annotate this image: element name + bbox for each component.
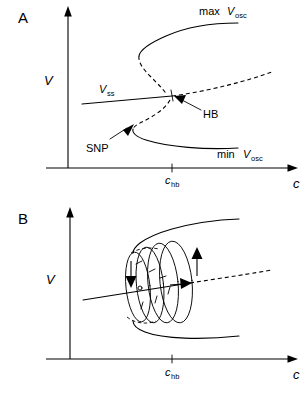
x-axis-arrowhead xyxy=(288,355,299,363)
min-word: min xyxy=(217,148,235,160)
curve-min-v-osc xyxy=(133,129,238,149)
curve-lower-envelope xyxy=(133,321,239,338)
label-min-v-osc: min V osc xyxy=(217,148,263,163)
curve-unstable-periodic-upper xyxy=(139,56,167,95)
panel-b-letter: B xyxy=(18,210,28,227)
panel-a-x-axis-label: c xyxy=(293,176,300,191)
snp-arrow xyxy=(110,124,134,139)
panel-b: B V c c hb xyxy=(0,199,308,398)
panel-b-y-axis-label: V xyxy=(46,272,56,287)
xtick-sub: hb xyxy=(171,180,179,189)
xtick-sub: hb xyxy=(171,372,179,381)
label-v-ss: V ss xyxy=(99,83,115,98)
x-axis-arrowhead xyxy=(288,164,299,172)
label-snp: SNP xyxy=(86,142,109,154)
label-hb: HB xyxy=(203,108,218,120)
orbit-direction-ticks xyxy=(136,261,170,309)
curve-v-ss-unstable xyxy=(172,72,272,96)
curve-max-v-osc xyxy=(139,23,238,56)
panel-a-plot: A V c c hb max V osc min V osc xyxy=(0,0,308,199)
max-word: max xyxy=(199,5,220,17)
panel-a-y-axis xyxy=(64,6,72,168)
panel-b-y-axis xyxy=(66,207,74,359)
label-max-v-osc: max V osc xyxy=(199,5,247,20)
flow-arrow-right-inner xyxy=(170,278,192,289)
panel-b-x-axis-label: c xyxy=(293,367,300,382)
y-axis-arrowhead xyxy=(66,207,74,218)
flow-arrow-down-left xyxy=(126,261,137,288)
max-sub: osc xyxy=(235,11,247,20)
curve-v-ss-stable xyxy=(82,96,172,104)
panel-a-x-axis xyxy=(46,164,298,172)
steady-state-point-marker xyxy=(138,286,142,290)
panel-b-x-axis xyxy=(46,355,298,363)
min-sub: osc xyxy=(251,154,263,163)
curve-unstable-periodic-lower xyxy=(133,100,170,129)
panel-a-letter: A xyxy=(18,9,28,26)
hb-arrow xyxy=(174,95,201,110)
panel-b-xtick-label: c hb xyxy=(165,366,179,381)
bifurcation-figure: A V c c hb max V osc min V osc xyxy=(0,0,308,398)
panel-a-y-axis-label: V xyxy=(44,73,54,88)
curve-steady-state-unstable xyxy=(190,270,272,283)
panel-a-xtick-label: c hb xyxy=(165,174,179,189)
vss-sub: ss xyxy=(107,89,115,98)
y-axis-arrowhead xyxy=(64,6,72,17)
panel-b-plot: B V c c hb xyxy=(0,199,308,398)
flow-arrow-up-right xyxy=(192,247,203,276)
panel-a: A V c c hb max V osc min V osc xyxy=(0,0,308,199)
